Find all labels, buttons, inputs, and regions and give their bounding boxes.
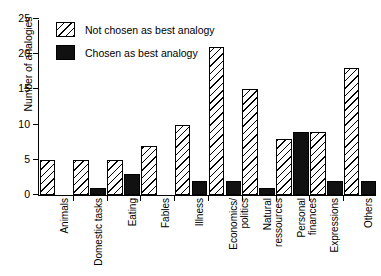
bar [310,132,326,195]
y-tick-label-20: 20 [18,47,30,59]
bar [344,68,360,195]
y-tick-0: 0 [33,194,39,195]
y-tick-label-5: 5 [24,153,30,165]
bar [209,47,225,195]
bar [40,160,56,195]
x-axis-label: Animals [60,198,71,276]
bar [327,181,343,195]
bar [107,160,123,195]
y-tick-15: 15 [33,88,39,89]
legend-swatch-solid-icon [56,45,75,60]
x-axis-label: Others [364,198,375,276]
y-tick-label-0: 0 [24,188,30,200]
x-axis-label: Illness [195,198,206,276]
y-tick-25: 25 [33,18,39,19]
bar-group [276,20,309,195]
y-tick-label-15: 15 [18,82,30,94]
y-tick-20: 20 [33,53,39,54]
y-tick-label-10: 10 [18,118,30,130]
bar [175,125,191,195]
bar-chart-figure: Number of analogies 0510152025 AnimalsDo… [0,0,381,276]
x-axis-label: Domestic tasks [94,198,105,276]
bar [73,160,89,195]
bar [276,139,292,195]
y-tick-10: 10 [33,124,39,125]
bar [226,181,242,195]
x-axis-label: Eating [128,198,139,276]
bar-group [310,20,343,195]
y-tick-5: 5 [33,159,39,160]
legend-swatch-hatched-icon [56,22,75,37]
legend-label-not-chosen: Not chosen as best analogy [85,24,215,36]
bar [259,188,275,195]
x-axis-label: Personal finances [297,198,318,276]
x-axis-label: Fables [161,198,172,276]
x-axis-labels: AnimalsDomestic tasksEatingFablesIllness… [38,198,376,276]
bar [361,181,377,195]
bar [141,146,157,195]
legend-label-chosen: Chosen as best analogy [85,47,198,59]
x-axis-label: Natural ressources [263,198,284,276]
bar [242,89,258,195]
bar [124,174,140,195]
x-axis-label: Economics/ politics [229,198,250,276]
y-tick-label-25: 25 [18,12,30,24]
legend-item-not-chosen: Not chosen as best analogy [56,22,256,37]
legend-item-chosen: Chosen as best analogy [56,45,256,60]
chart-legend: Not chosen as best analogy Chosen as bes… [56,22,256,68]
bar [90,188,106,195]
bar [192,181,208,195]
bar [293,132,309,195]
bar-group [344,20,377,195]
x-axis-label: Expressions [330,198,341,276]
